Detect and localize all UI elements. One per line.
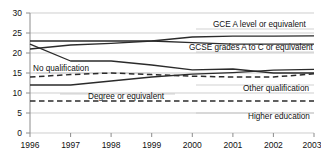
chart-svg: 30 25 20 15 10 5 0 1996 1997 1998 1999 2…: [0, 0, 321, 162]
y-tick-label-30: 30: [13, 8, 23, 18]
x-tick-label-2000: 2000: [183, 140, 202, 150]
x-tick-label-2002: 2002: [264, 140, 283, 150]
x-tick-label-1997: 1997: [61, 140, 80, 150]
series-label-gcse-grades: GCSE grades A to C or equivalent: [189, 43, 314, 52]
y-tick-label-15: 15: [13, 68, 23, 78]
series-label-no-qualification: No qualification: [33, 64, 89, 73]
y-tick-label-0: 0: [17, 128, 22, 138]
series-label-other-qualification: Other qualification: [243, 84, 309, 93]
y-tick-label-5: 5: [17, 108, 22, 118]
x-tick-label-2003: 2003: [303, 140, 321, 150]
x-tick-label-1996: 1996: [21, 140, 40, 150]
line-chart: 30 25 20 15 10 5 0 1996 1997 1998 1999 2…: [0, 0, 321, 162]
x-tick-label-1998: 1998: [102, 140, 121, 150]
x-tick-label-2001: 2001: [223, 140, 242, 150]
series-label-gce-a-level: GCE A level or equivalent: [213, 20, 307, 29]
series-label-degree: Degree or equivalent: [88, 92, 165, 101]
y-tick-label-20: 20: [13, 48, 23, 58]
y-tick-label-10: 10: [13, 88, 23, 98]
y-tick-label-25: 25: [13, 28, 23, 38]
series-label-higher-education: Higher education: [248, 112, 310, 121]
x-tick-label-1999: 1999: [142, 140, 161, 150]
